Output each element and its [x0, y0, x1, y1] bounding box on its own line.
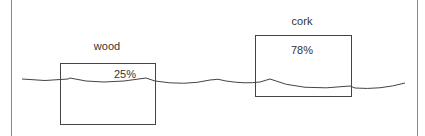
wood-percent: 25%	[114, 68, 136, 80]
buoyancy-diagram	[0, 0, 425, 136]
cork-percent: 78%	[291, 44, 313, 56]
wood-label: wood	[94, 40, 120, 52]
cork-label: cork	[292, 15, 313, 27]
water-surface-line	[22, 78, 405, 88]
wood-block	[61, 64, 156, 125]
